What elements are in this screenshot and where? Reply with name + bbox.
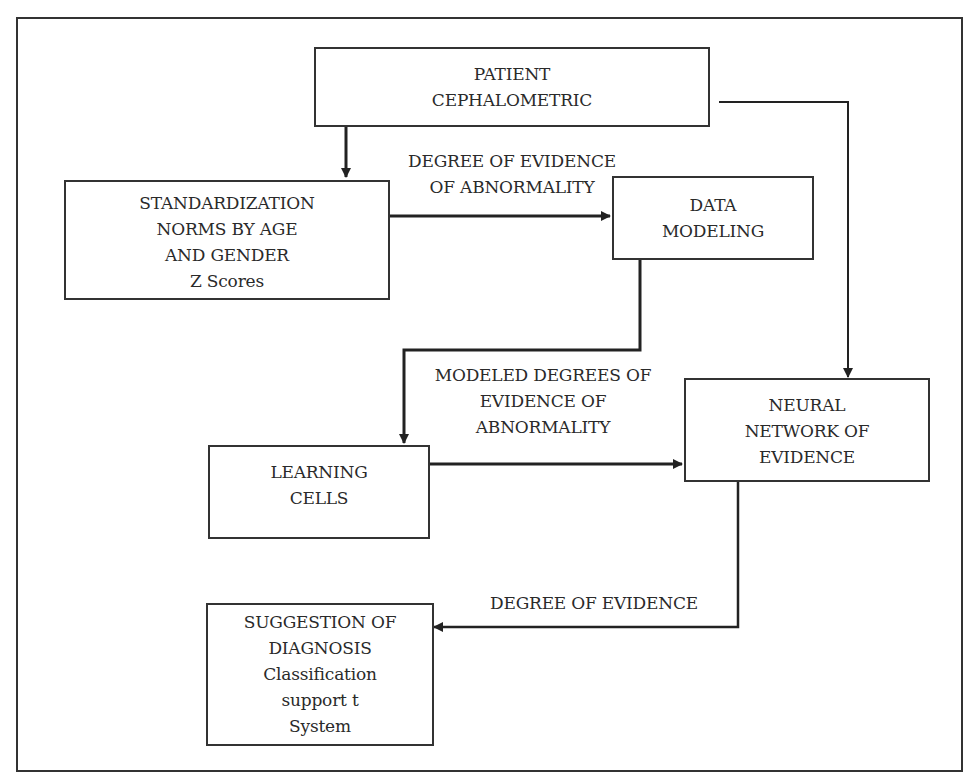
label-text: EVIDENCE OF: [418, 388, 668, 414]
node-data-modeling: DATA MODELING: [612, 176, 814, 260]
node-text: System: [289, 713, 351, 739]
node-text: PATIENT: [474, 61, 551, 87]
node-standardization: STANDARDIZATION NORMS BY AGE AND GENDER …: [64, 180, 390, 300]
node-text: CELLS: [290, 485, 349, 511]
node-neural-network: NEURAL NETWORK OF EVIDENCE: [684, 378, 930, 482]
node-suggestion-of-diagnosis: SUGGESTION OF DIAGNOSIS Classification s…: [206, 603, 434, 746]
node-text: CEPHALOMETRIC: [432, 87, 592, 113]
label-text: MODELED DEGREES OF: [418, 362, 668, 388]
node-text: AND GENDER: [165, 242, 289, 268]
node-text: SUGGESTION OF: [244, 609, 397, 635]
node-text: NEURAL: [769, 392, 846, 418]
node-text: support t: [281, 687, 358, 713]
node-text: EVIDENCE: [759, 444, 855, 470]
edge-label-degree-of-evidence-of-abnormality: DEGREE OF EVIDENCE OF ABNORMALITY: [392, 148, 632, 200]
label-text: OF ABNORMALITY: [392, 174, 632, 200]
label-text: ABNORMALITY: [418, 414, 668, 440]
node-patient-cephalometric: PATIENT CEPHALOMETRIC: [314, 47, 710, 127]
edge-label-degree-of-evidence: DEGREE OF EVIDENCE: [444, 590, 744, 616]
node-text: Z Scores: [190, 268, 264, 294]
node-text: Classification: [263, 661, 377, 687]
node-text: NETWORK OF: [745, 418, 870, 444]
edge-label-modeled-degrees: MODELED DEGREES OF EVIDENCE OF ABNORMALI…: [418, 362, 668, 440]
node-text: MODELING: [662, 218, 764, 244]
node-text: DATA: [690, 192, 737, 218]
node-text: DIAGNOSIS: [268, 635, 371, 661]
node-text: NORMS BY AGE: [157, 216, 298, 242]
node-learning-cells: LEARNING CELLS: [208, 445, 430, 539]
label-text: DEGREE OF EVIDENCE: [392, 148, 632, 174]
label-text: DEGREE OF EVIDENCE: [444, 590, 744, 616]
node-text: LEARNING: [270, 459, 367, 485]
node-text: STANDARDIZATION: [139, 190, 314, 216]
